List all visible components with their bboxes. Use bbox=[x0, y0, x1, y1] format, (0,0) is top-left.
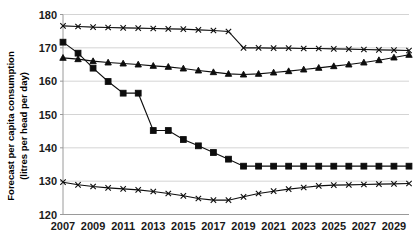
y-tick-label-150: 150 bbox=[39, 109, 57, 121]
x-tick-label-2023: 2023 bbox=[291, 220, 315, 232]
marker-square bbox=[60, 39, 66, 45]
marker-square bbox=[316, 163, 322, 169]
x-tick-label-2019: 2019 bbox=[231, 220, 255, 232]
series-line-1 bbox=[63, 55, 409, 75]
marker-square bbox=[391, 163, 397, 169]
marker-square bbox=[346, 163, 352, 169]
x-tick-label-2007: 2007 bbox=[51, 220, 75, 232]
series-layer bbox=[60, 23, 412, 203]
chart-container: 120130140150160170180 200720092011201320… bbox=[0, 0, 418, 252]
marker-square bbox=[226, 156, 232, 162]
marker-square bbox=[256, 163, 262, 169]
marker-square bbox=[165, 128, 171, 134]
y-tick-label-170: 170 bbox=[39, 42, 57, 54]
marker-square bbox=[301, 163, 307, 169]
x-tick-label-2029: 2029 bbox=[382, 220, 406, 232]
marker-square bbox=[105, 79, 111, 85]
marker-triangle bbox=[60, 55, 66, 61]
series-line-3 bbox=[63, 182, 409, 200]
x-tick-label-2025: 2025 bbox=[322, 220, 346, 232]
marker-square bbox=[286, 163, 292, 169]
y-axis-title-line1: Forecast per capita consumption bbox=[5, 51, 16, 201]
marker-square bbox=[376, 163, 382, 169]
x-axis-tick-labels: 2007200920112013201520172019202120232025… bbox=[51, 220, 406, 232]
line-chart: 120130140150160170180 200720092011201320… bbox=[0, 0, 418, 252]
marker-square bbox=[271, 163, 277, 169]
marker-square bbox=[406, 163, 412, 169]
y-tick-label-160: 160 bbox=[39, 75, 57, 87]
marker-square bbox=[331, 163, 337, 169]
x-tick-label-2027: 2027 bbox=[352, 220, 376, 232]
series-series-middle-triangle bbox=[60, 52, 412, 77]
x-tick-label-2011: 2011 bbox=[111, 220, 135, 232]
y-axis-title: Forecast per capita consumption (litres … bbox=[5, 51, 29, 201]
y-tick-label-180: 180 bbox=[39, 9, 57, 21]
marker-square bbox=[150, 128, 156, 134]
x-tick-label-2013: 2013 bbox=[141, 220, 165, 232]
x-tick-label-2009: 2009 bbox=[81, 220, 105, 232]
marker-square bbox=[75, 50, 81, 56]
series-series-top-cross bbox=[60, 23, 411, 53]
marker-square bbox=[195, 143, 201, 149]
y-tick-label-140: 140 bbox=[39, 142, 57, 154]
series-series-bottom-cross bbox=[60, 179, 411, 202]
series-line-0 bbox=[63, 26, 409, 51]
series-series-lower-square bbox=[60, 39, 412, 169]
marker-square bbox=[361, 163, 367, 169]
marker-square bbox=[241, 163, 247, 169]
marker-square bbox=[135, 90, 141, 96]
y-tick-label-130: 130 bbox=[39, 175, 57, 187]
y-axis-tick-labels: 120130140150160170180 bbox=[39, 9, 57, 221]
marker-square bbox=[120, 90, 126, 96]
x-tick-label-2017: 2017 bbox=[201, 220, 225, 232]
marker-square bbox=[90, 65, 96, 71]
x-tick-label-2021: 2021 bbox=[261, 220, 285, 232]
marker-square bbox=[211, 150, 217, 156]
x-tick-label-2015: 2015 bbox=[171, 220, 195, 232]
y-axis-title-line2: (litres per head per day) bbox=[18, 72, 29, 180]
marker-square bbox=[180, 137, 186, 143]
